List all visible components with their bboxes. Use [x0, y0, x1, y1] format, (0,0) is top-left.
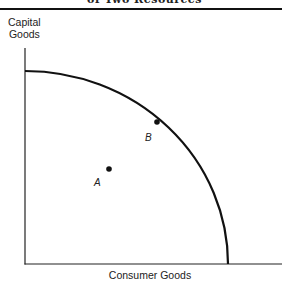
- point-b-marker: [154, 119, 160, 125]
- point-a-marker: [106, 166, 112, 172]
- ppf-curve: [25, 71, 228, 264]
- ppf-diagram: B A: [0, 0, 289, 287]
- point-b-label: B: [145, 132, 152, 143]
- x-axis-label: Consumer Goods: [0, 269, 289, 281]
- point-a-label: A: [93, 177, 101, 188]
